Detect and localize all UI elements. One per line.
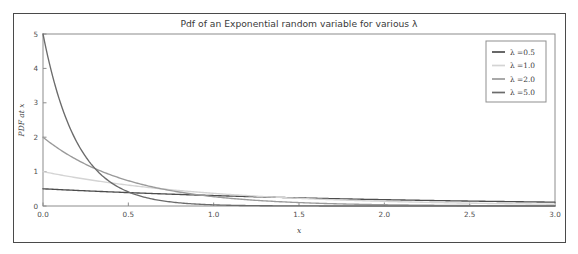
y-tick-label: 0 <box>33 202 38 211</box>
x-tick-label: 1.5 <box>293 210 304 219</box>
legend-label-lambda-1: λ =1.0 <box>510 61 535 70</box>
y-axis-title: PDF at x <box>17 103 26 138</box>
y-tick-label: 3 <box>33 98 38 107</box>
figure-frame: Pdf of an Exponential random variable fo… <box>13 13 566 243</box>
y-tick-label: 2 <box>33 133 38 142</box>
x-tick-label: 0.5 <box>123 210 134 219</box>
legend-label-lambda-2: λ =2.0 <box>510 75 535 84</box>
series-line-lambda-5 <box>43 34 555 206</box>
y-tick-label: 5 <box>33 30 38 39</box>
x-tick-label: 0.0 <box>37 210 49 219</box>
x-tick-label: 3.0 <box>549 210 561 219</box>
legend-label-lambda-5: λ =5.0 <box>510 88 535 97</box>
chart-title: Pdf of an Exponential random variable fo… <box>180 18 418 29</box>
x-tick-label: 2.5 <box>464 210 475 219</box>
x-tick-label: 1.0 <box>208 210 220 219</box>
plot-area: Pdf of an Exponential random variable fo… <box>14 14 567 244</box>
y-tick-label: 1 <box>33 167 38 176</box>
exponential-pdf-chart: Pdf of an Exponential random variable fo… <box>14 14 567 244</box>
legend-label-lambda-0.5: λ =0.5 <box>510 48 535 57</box>
axes-frame <box>43 34 555 206</box>
series-line-lambda-2 <box>43 137 555 206</box>
y-tick-label: 4 <box>33 64 38 73</box>
x-tick-label: 2.0 <box>379 210 391 219</box>
x-axis-title: x <box>297 226 302 235</box>
series-line-lambda-0.5 <box>43 189 555 202</box>
